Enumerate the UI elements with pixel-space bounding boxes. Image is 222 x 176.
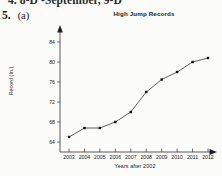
y-tick-label: 84 — [41, 39, 55, 45]
chart-plot-area — [0, 0, 222, 176]
x-tick-label: 2012 — [199, 154, 217, 160]
y-axis — [57, 25, 63, 152]
data-point — [68, 136, 70, 138]
chart-title: High Jump Records — [92, 10, 196, 17]
data-point — [160, 78, 162, 80]
data-point — [207, 57, 209, 59]
y-tick-label: 76 — [41, 79, 55, 85]
data-point — [83, 127, 85, 129]
high-jump-records-chart: High Jump Records Record (In.) Years aft… — [0, 0, 222, 176]
data-line — [69, 58, 208, 137]
y-tick-label: 68 — [41, 119, 55, 125]
x-axis-ticks — [69, 149, 208, 153]
y-tick-label: 80 — [41, 59, 55, 65]
data-point — [114, 121, 116, 123]
data-point — [176, 71, 178, 73]
data-markers — [68, 57, 209, 138]
x-axis-label: Years after 2002 — [60, 163, 210, 169]
data-point — [99, 127, 101, 129]
data-point — [145, 91, 147, 93]
y-tick-label: 64 — [41, 139, 55, 145]
y-tick-label: 72 — [41, 99, 55, 105]
y-axis-label: Record (In.) — [8, 52, 14, 110]
data-point — [191, 61, 193, 63]
data-point — [130, 111, 132, 113]
y-axis-ticks — [57, 42, 60, 142]
